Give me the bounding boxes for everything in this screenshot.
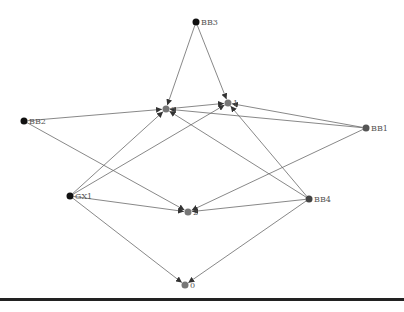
node-circle[interactable] xyxy=(67,193,74,200)
edge-BB1-to-3 xyxy=(170,109,363,127)
node-circle[interactable] xyxy=(363,125,370,132)
node-circle[interactable] xyxy=(193,19,200,26)
edge-BB4-to-2 xyxy=(192,199,306,211)
edge-BB4-to-0 xyxy=(188,201,306,283)
edge-GX1-to-0 xyxy=(73,198,182,282)
node-label: BB3 xyxy=(201,18,218,27)
node-label: 3 xyxy=(171,105,176,114)
node-circle[interactable] xyxy=(225,100,232,107)
edge-GX1-to-1 xyxy=(73,105,225,194)
edge-BB2-to-3 xyxy=(27,109,162,120)
node-label: BB2 xyxy=(29,117,46,126)
node-circle[interactable] xyxy=(185,209,192,216)
bottom-divider xyxy=(0,298,404,301)
node-circle[interactable] xyxy=(306,196,313,203)
edge-BB3-to-1 xyxy=(197,25,226,99)
edge-BB2-to-2 xyxy=(27,123,184,210)
node-3[interactable]: 3 xyxy=(163,105,177,114)
node-label: 0 xyxy=(190,281,195,290)
directed-graph: BB331BB2BB1GX1BB420 xyxy=(0,0,404,312)
node-BB2[interactable]: BB2 xyxy=(21,117,46,126)
node-BB3[interactable]: BB3 xyxy=(193,18,218,27)
edge-BB4-to-3 xyxy=(169,111,306,197)
node-label: BB1 xyxy=(371,124,388,133)
edge-3-to-1 xyxy=(169,103,224,108)
node-BB4[interactable]: BB4 xyxy=(306,195,331,204)
node-BB1[interactable]: BB1 xyxy=(363,124,388,133)
node-label: 2 xyxy=(193,208,198,217)
node-label: 1 xyxy=(233,99,238,108)
edge-BB3-to-3 xyxy=(167,25,195,105)
edge-BB4-to-1 xyxy=(231,106,307,196)
nodes-layer: BB331BB2BB1GX1BB420 xyxy=(21,18,388,290)
node-circle[interactable] xyxy=(182,282,189,289)
node-2[interactable]: 2 xyxy=(185,208,199,217)
node-circle[interactable] xyxy=(163,106,170,113)
node-GX1[interactable]: GX1 xyxy=(67,192,93,201)
edge-GX1-to-3 xyxy=(73,112,163,194)
node-label: BB4 xyxy=(314,195,331,204)
edges-layer xyxy=(27,25,363,282)
node-label: GX1 xyxy=(75,192,92,201)
node-circle[interactable] xyxy=(21,118,28,125)
edge-BB1-to-1 xyxy=(232,104,363,128)
